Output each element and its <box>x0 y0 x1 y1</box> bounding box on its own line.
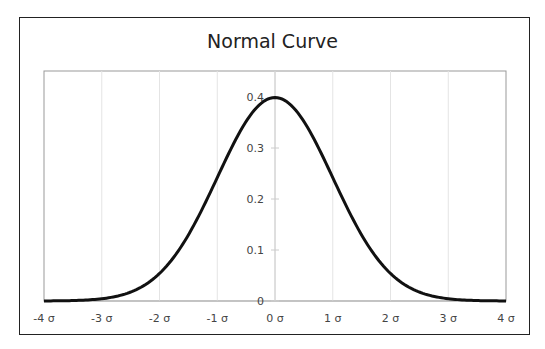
x-tick-label: 0 σ <box>266 312 283 325</box>
x-tick-label: -1 σ <box>207 312 228 325</box>
x-tick-label: -2 σ <box>149 312 170 325</box>
y-tick-label: 0.2 <box>247 193 265 206</box>
x-tick-label: 3 σ <box>440 312 457 325</box>
x-tick-label: -3 σ <box>91 312 112 325</box>
x-tick-label: 2 σ <box>382 312 399 325</box>
y-tick-label: 0 <box>257 295 264 308</box>
chart-plot: 00.10.20.30.4 -4 σ-3 σ-2 σ-1 σ0 σ1 σ2 σ3… <box>0 0 545 349</box>
x-tick-label: 4 σ <box>497 312 514 325</box>
x-tick-label: -4 σ <box>33 312 54 325</box>
y-axis-ticks: 00.10.20.30.4 <box>247 91 280 308</box>
y-tick-label: 0.1 <box>247 244 265 257</box>
y-tick-label: 0.3 <box>247 142 265 155</box>
x-axis-ticks: -4 σ-3 σ-2 σ-1 σ0 σ1 σ2 σ3 σ4 σ <box>33 312 514 325</box>
x-tick-label: 1 σ <box>324 312 341 325</box>
